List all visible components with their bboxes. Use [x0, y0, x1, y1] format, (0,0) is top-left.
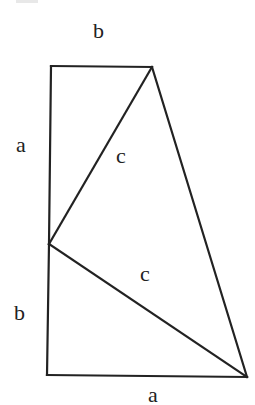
left-edge-b [47, 244, 49, 375]
label-top-b: b [93, 20, 104, 42]
trapezoid-proof-diagram: b a c c b a [0, 0, 255, 405]
label-upper-c: c [116, 145, 126, 167]
bottom-edge-a [47, 375, 247, 377]
hypotenuse-upper-c [49, 67, 152, 244]
right-edge [152, 67, 247, 377]
label-left-a: a [16, 134, 26, 156]
label-left-b: b [14, 302, 25, 324]
label-lower-c: c [140, 263, 150, 285]
label-bottom-a: a [148, 384, 158, 405]
left-edge-a [49, 66, 51, 244]
diagram-lines [0, 0, 255, 405]
top-edge-b [51, 66, 152, 67]
